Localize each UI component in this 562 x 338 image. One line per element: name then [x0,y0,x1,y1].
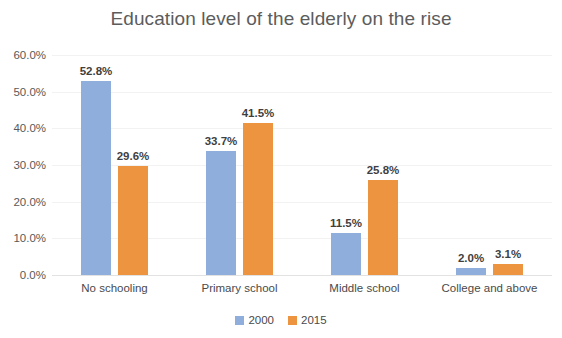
y-axis-tick-label: 30.0% [0,159,46,171]
y-axis-tick-label: 40.0% [0,122,46,134]
x-axis-category-label: College and above [442,282,538,294]
y-axis-tick-label: 0.0% [0,269,46,281]
y-axis-tick-label: 60.0% [0,49,46,61]
bar-rect [81,81,111,275]
x-axis-category-label: No schooling [81,282,147,294]
legend-label: 2015 [301,314,327,326]
bar-value-label: 41.5% [242,107,275,119]
bar-rect [456,268,486,275]
bar-group: 52.8%29.6% [52,55,177,275]
x-axis-category-label: Middle school [329,282,399,294]
gridline [52,275,552,276]
x-axis-category-label: Primary school [201,282,277,294]
bar-value-label: 52.8% [80,65,113,77]
bar-value-label: 33.7% [205,135,238,147]
bar-rect [243,123,273,275]
bar-rect [331,233,361,275]
bar-chart: Education level of the elderly on the ri… [0,0,562,338]
bar-rect [493,264,523,275]
bar-rect [368,180,398,275]
plot-area: 52.8%29.6%33.7%41.5%11.5%25.8%2.0%3.1% [52,55,552,275]
y-axis-tick-label: 10.0% [0,232,46,244]
chart-legend: 20002015 [0,314,562,326]
legend-entry-2000[interactable]: 2000 [235,314,274,326]
y-axis-tick-label: 50.0% [0,86,46,98]
bar-value-label: 2.0% [458,252,484,264]
y-axis-tick-label: 20.0% [0,196,46,208]
bar-rect [206,151,236,275]
bar-value-label: 3.1% [495,248,521,260]
bar-group: 11.5%25.8% [302,55,427,275]
legend-entry-2015[interactable]: 2015 [288,314,327,326]
bar-value-label: 29.6% [117,150,150,162]
bar-rect [118,166,148,275]
bar-value-label: 11.5% [330,217,362,229]
bar-group: 33.7%41.5% [177,55,302,275]
bar-value-label: 25.8% [367,164,400,176]
legend-swatch-icon [235,316,244,325]
legend-label: 2000 [248,314,274,326]
legend-swatch-icon [288,316,297,325]
chart-title: Education level of the elderly on the ri… [0,8,562,30]
bar-group: 2.0%3.1% [427,55,552,275]
